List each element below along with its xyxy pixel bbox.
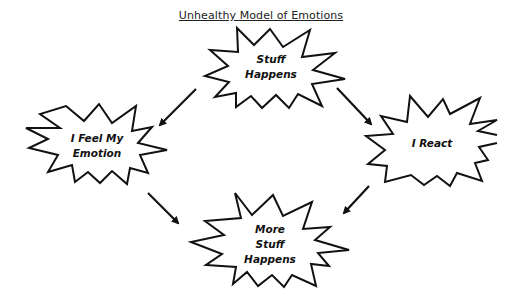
node-label-i-react: I React <box>412 136 453 151</box>
arrow-react-to-more <box>344 186 369 213</box>
node-label-more-stuff-happens: More Stuff Happens <box>244 222 296 267</box>
label-line: I React <box>412 136 453 151</box>
node-label-stuff-happens: Stuff Happens <box>245 52 297 82</box>
arrow-feel-to-more <box>148 193 178 223</box>
label-line: Stuff <box>244 237 296 252</box>
label-line: Happens <box>245 67 297 82</box>
label-line: More <box>244 222 296 237</box>
arrow-stuff-to-feel <box>160 89 196 125</box>
label-line: I Feel My <box>71 131 124 146</box>
label-line: Emotion <box>71 146 124 161</box>
node-label-i-feel-my-emotion: I Feel My Emotion <box>71 131 124 161</box>
arrow-stuff-to-react <box>337 88 371 124</box>
diagram-title: Unhealthy Model of Emotions <box>0 9 522 22</box>
label-line: Stuff <box>245 52 297 67</box>
label-line: Happens <box>244 252 296 267</box>
